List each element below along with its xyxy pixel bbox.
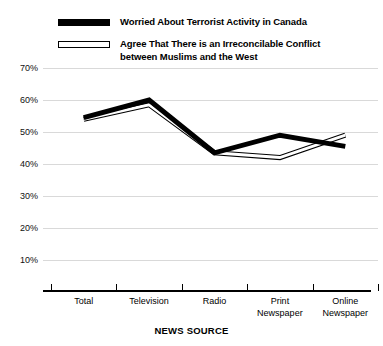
x-axis-tick: [313, 284, 314, 291]
x-axis-tick-label: Online Newspaper: [313, 296, 378, 319]
x-axis-tick: [378, 284, 379, 291]
x-axis-tick-label: Radio: [182, 296, 247, 308]
x-axis-tick-label: Print Newspaper: [247, 296, 312, 319]
x-axis-tick: [51, 284, 52, 291]
x-axis-tick: [247, 284, 248, 291]
series-line-worried: [84, 100, 346, 153]
x-axis-tick: [116, 284, 117, 291]
x-axis-tick-label: Television: [116, 296, 181, 308]
series-layer: [0, 0, 383, 346]
x-axis-line: [43, 290, 371, 292]
line-chart: Worried About Terrorist Activity in Cana…: [0, 0, 383, 346]
x-axis-tick: [182, 284, 183, 291]
x-axis-tick-label: Total: [51, 296, 116, 308]
x-axis-title: NEWS SOURCE: [0, 325, 383, 336]
plot-area: 70%60%50%40%30%20%10% TotalTelevisionRad…: [0, 0, 383, 346]
